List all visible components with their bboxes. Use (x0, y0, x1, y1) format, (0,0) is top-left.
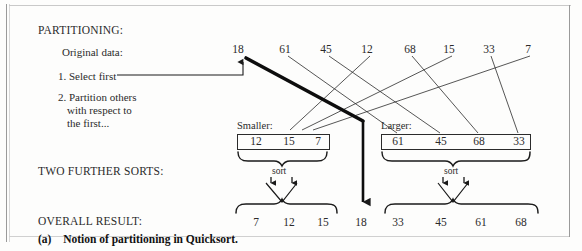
figure-caption-label: (a) (38, 233, 51, 245)
sort-funnel-right (438, 177, 468, 202)
page-border-top (9, 5, 571, 6)
brace-result-right (385, 199, 538, 213)
figure-caption-text: Notion of partitioning in Quicksort. (63, 233, 238, 245)
label-sort-left: sort (272, 166, 286, 177)
original-data-value: 68 (401, 43, 419, 55)
original-data-value: 45 (317, 43, 335, 55)
result-value: 33 (389, 216, 407, 228)
original-data-value: 61 (276, 43, 294, 55)
label-step-2-line3: the first... (67, 117, 109, 130)
label-larger: Larger: (381, 120, 412, 132)
label-step-1: 1. Select first (58, 70, 116, 83)
smaller-partition-value: 15 (280, 135, 298, 147)
result-pivot-value: 18 (352, 216, 370, 228)
result-value: 7 (248, 216, 264, 228)
label-original-data: Original data: (62, 46, 123, 59)
larger-partition-value: 68 (470, 135, 488, 147)
larger-partition-value: 45 (432, 135, 450, 147)
label-overall-result: OVERALL RESULT: (38, 215, 142, 228)
page-border-left-inner (9, 4, 10, 242)
label-two-further-sorts: TWO FURTHER SORTS: (38, 165, 164, 178)
smaller-partition-value: 12 (247, 135, 265, 147)
result-value: 12 (280, 216, 298, 228)
brace-larger (382, 152, 530, 166)
larger-partition-value: 61 (389, 135, 407, 147)
page-border-left (6, 4, 7, 242)
result-value: 45 (432, 216, 450, 228)
figure-page: PARTITIONING: Original data: 1. Select f… (0, 0, 582, 251)
original-data-value: 33 (480, 43, 498, 55)
larger-partition-value: 33 (510, 135, 528, 147)
brace-result-left (236, 199, 337, 213)
label-step-2-line2: with respect to (67, 104, 132, 117)
label-partitioning: PARTITIONING: (38, 24, 123, 37)
result-value: 68 (512, 216, 530, 228)
page-border-right (569, 5, 570, 237)
smaller-partition-value: 7 (311, 135, 325, 147)
select-first-leader (117, 62, 243, 75)
label-smaller: Smaller: (237, 120, 273, 132)
original-data-value: 12 (358, 43, 376, 55)
original-data-value: 7 (519, 43, 537, 55)
result-value: 15 (314, 216, 332, 228)
original-data-value: 18 (229, 43, 247, 55)
label-sort-right: sort (444, 166, 458, 177)
figure-caption: (a) Notion of partitioning in Quicksort. (38, 233, 238, 246)
result-value: 61 (472, 216, 490, 228)
brace-smaller (238, 152, 327, 166)
label-step-2-line1: 2. Partition others (58, 91, 137, 104)
sort-funnel-left (266, 177, 297, 202)
original-data-value: 15 (440, 43, 458, 55)
